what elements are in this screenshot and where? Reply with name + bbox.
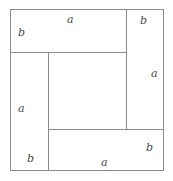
top-horizontal-cut — [10, 52, 127, 53]
left-vertical-cut — [48, 52, 49, 171]
label-top-rect-long-side: a — [67, 14, 74, 25]
label-top-right-short-side: b — [140, 15, 147, 26]
label-bottom-left-short-side: b — [27, 153, 34, 164]
outer-square-top-edge — [10, 9, 164, 10]
outer-square-left-edge — [10, 9, 11, 171]
square-dissection-diagram: b a b a a b a b — [0, 0, 173, 181]
label-bottom-right-short-side: b — [146, 142, 153, 153]
bottom-horizontal-cut — [48, 129, 164, 130]
right-vertical-cut — [126, 9, 127, 130]
label-left-rect-long-side: a — [18, 103, 25, 114]
label-right-rect-long-side: a — [151, 68, 158, 79]
label-top-rect-short-side: b — [18, 27, 25, 38]
outer-square-right-edge — [163, 9, 164, 171]
figure-canvas: b a b a a b a b — [0, 0, 173, 181]
label-bottom-rect-long-side: a — [101, 157, 108, 168]
outer-square-bottom-edge — [10, 170, 164, 171]
